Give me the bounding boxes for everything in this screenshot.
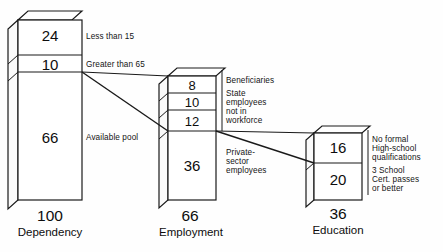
employment-bar-top-face xyxy=(168,68,225,76)
dependency-segment-value-66: 66 xyxy=(18,130,82,145)
label-private-sector-line3: employees xyxy=(226,166,306,175)
label-private-sector-line2: sector xyxy=(226,157,306,166)
employment-segment-value-12: 12 xyxy=(168,114,216,129)
label-school-cert-line2: Cert. passes xyxy=(372,175,443,184)
label-beneficiaries: Beneficiaries xyxy=(226,76,306,85)
education-segment-value-16: 16 xyxy=(314,140,362,155)
education-bar-top-face xyxy=(314,126,370,133)
label-no-formal-line2: High-school xyxy=(372,144,443,153)
employment-segment-value-36: 36 xyxy=(168,158,216,173)
label-school-cert-line1: 3 School xyxy=(372,166,443,175)
diagram-canvas: 24 10 66 Less than 15 Greater than 65 Av… xyxy=(0,0,443,252)
employment-total: 66 xyxy=(160,208,220,224)
label-state-employees-line4: workforce xyxy=(226,116,306,125)
education-segment-value-20: 20 xyxy=(314,172,362,187)
dependency-bar-top-face xyxy=(18,11,82,20)
dependency-bar-front-face xyxy=(18,20,82,200)
education-bar-side-face xyxy=(306,133,314,207)
label-no-formal-line1: No formal xyxy=(372,135,443,144)
label-available-pool: Available pool xyxy=(86,133,166,142)
dependency-bar-side-face xyxy=(8,20,18,209)
dependency-category-label: Dependency xyxy=(4,226,96,238)
dependency-segment-value-10: 10 xyxy=(18,57,82,72)
label-no-formal-line3: qualifications xyxy=(372,153,443,162)
label-greater-than-65: Greater than 65 xyxy=(86,60,176,69)
employment-segment-value-8: 8 xyxy=(168,78,216,93)
label-state-employees-line2: employees xyxy=(226,98,306,107)
connector-dependency-to-employment-bottom xyxy=(82,72,168,131)
education-category-label: Education xyxy=(296,224,380,236)
education-total: 36 xyxy=(308,206,368,222)
label-school-cert-line3: or better xyxy=(372,184,443,193)
label-state-employees-line3: not in xyxy=(226,107,306,116)
employment-segment-value-10: 10 xyxy=(168,95,216,110)
label-private-sector-line1: Private- xyxy=(226,148,306,157)
connector-employment-to-education-top xyxy=(216,131,314,133)
label-less-than-15: Less than 15 xyxy=(86,32,166,41)
connector-dependency-to-employment-top xyxy=(82,72,168,76)
label-state-employees-line1: State xyxy=(226,89,306,98)
dependency-segment-value-24: 24 xyxy=(18,28,82,43)
dependency-total: 100 xyxy=(12,208,88,224)
employment-category-label: Employment xyxy=(148,226,234,238)
